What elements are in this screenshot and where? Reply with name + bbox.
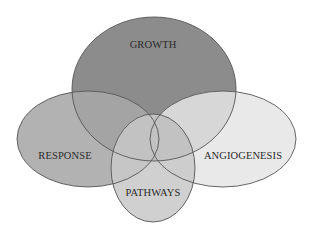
label-response: RESPONSE: [38, 150, 91, 161]
label-angiogenesis: ANGIOGENESIS: [204, 150, 282, 161]
venn-diagram: GROWTH RESPONSE ANGIOGENESIS PATHWAYS: [0, 0, 309, 237]
label-pathways: PATHWAYS: [126, 187, 181, 198]
label-growth: GROWTH: [130, 39, 177, 50]
